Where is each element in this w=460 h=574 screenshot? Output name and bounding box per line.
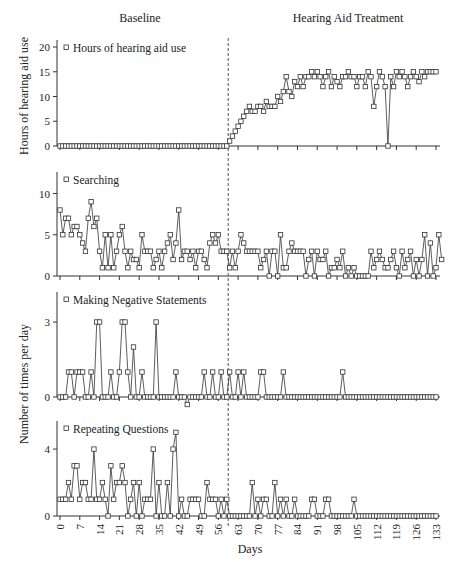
data-point bbox=[326, 274, 330, 278]
data-point bbox=[225, 395, 229, 399]
data-point bbox=[281, 514, 285, 518]
data-point bbox=[193, 266, 197, 270]
data-point bbox=[126, 514, 130, 518]
data-point bbox=[292, 497, 296, 501]
data-point bbox=[208, 241, 212, 245]
data-point bbox=[256, 249, 260, 253]
y-tick-label: 4 bbox=[45, 443, 51, 455]
y-axis-label-hours: Hours of hearing aid use bbox=[17, 37, 31, 155]
data-point bbox=[109, 370, 113, 374]
data-point bbox=[256, 497, 260, 501]
data-point bbox=[326, 70, 330, 74]
data-point bbox=[253, 109, 257, 113]
data-point bbox=[386, 266, 390, 270]
data-point bbox=[233, 129, 237, 133]
data-point bbox=[63, 497, 67, 501]
data-point bbox=[80, 370, 84, 374]
x-tick-label: 126 bbox=[410, 524, 422, 541]
y-axis-label-shared: Number of times per day bbox=[17, 324, 31, 444]
data-point bbox=[301, 249, 305, 253]
x-tick-label: 84 bbox=[291, 524, 303, 536]
data-point bbox=[109, 233, 113, 237]
data-point bbox=[264, 99, 268, 103]
data-point bbox=[386, 144, 390, 148]
data-point bbox=[227, 139, 231, 143]
data-point bbox=[66, 216, 70, 220]
x-tick-label: 133 bbox=[430, 524, 442, 541]
panel-searching: 0510Searching bbox=[39, 172, 444, 282]
x-tick-label: 49 bbox=[193, 524, 205, 536]
data-point bbox=[83, 480, 87, 484]
data-point bbox=[199, 249, 203, 253]
data-point bbox=[360, 75, 364, 79]
data-point bbox=[352, 75, 356, 79]
data-point bbox=[242, 241, 246, 245]
data-point bbox=[157, 249, 161, 253]
data-point bbox=[403, 75, 407, 79]
data-point bbox=[236, 124, 240, 128]
data-point bbox=[422, 233, 426, 237]
data-point bbox=[171, 447, 175, 451]
data-point bbox=[196, 497, 200, 501]
data-point bbox=[372, 104, 376, 108]
data-point bbox=[128, 395, 132, 399]
data-point bbox=[321, 514, 325, 518]
data-point bbox=[112, 266, 116, 270]
data-point bbox=[281, 89, 285, 93]
data-point bbox=[324, 75, 328, 79]
data-point bbox=[259, 514, 263, 518]
x-tick-label: 0 bbox=[54, 524, 66, 530]
data-point bbox=[406, 257, 410, 261]
data-point bbox=[233, 395, 237, 399]
data-point bbox=[97, 320, 101, 324]
data-point bbox=[315, 70, 319, 74]
data-point bbox=[239, 119, 243, 123]
data-point bbox=[408, 249, 412, 253]
data-point bbox=[128, 249, 132, 253]
data-point bbox=[86, 216, 90, 220]
data-point bbox=[307, 257, 311, 261]
data-point bbox=[273, 249, 277, 253]
data-point bbox=[188, 257, 192, 261]
data-point bbox=[275, 274, 279, 278]
data-point bbox=[343, 274, 347, 278]
data-point bbox=[408, 75, 412, 79]
data-point bbox=[222, 514, 226, 518]
data-point bbox=[179, 497, 183, 501]
data-point bbox=[355, 84, 359, 88]
data-point bbox=[151, 447, 155, 451]
data-point bbox=[312, 274, 316, 278]
data-point bbox=[171, 257, 175, 261]
y-tick-label: 10 bbox=[39, 91, 51, 103]
data-point bbox=[154, 514, 158, 518]
data-line bbox=[60, 322, 436, 405]
data-point bbox=[278, 497, 282, 501]
data-point bbox=[202, 257, 206, 261]
data-point bbox=[366, 70, 370, 74]
data-point bbox=[233, 266, 237, 270]
data-point bbox=[236, 249, 240, 253]
data-point bbox=[213, 241, 217, 245]
data-point bbox=[278, 233, 282, 237]
data-point bbox=[112, 497, 116, 501]
data-point bbox=[363, 84, 367, 88]
data-point bbox=[425, 274, 429, 278]
data-point bbox=[374, 257, 378, 261]
data-point bbox=[420, 257, 424, 261]
panel-hours-of-hearing-aid-use: 05101520Hours of hearing aid use bbox=[39, 40, 440, 152]
data-point bbox=[349, 514, 353, 518]
data-point bbox=[177, 514, 181, 518]
data-point bbox=[230, 249, 234, 253]
data-point bbox=[292, 79, 296, 83]
data-point bbox=[434, 514, 438, 518]
data-point bbox=[78, 497, 82, 501]
y-tick-label: 0 bbox=[45, 391, 51, 403]
data-point bbox=[162, 249, 166, 253]
data-point bbox=[92, 447, 96, 451]
data-point bbox=[162, 514, 166, 518]
data-point bbox=[434, 395, 438, 399]
data-point bbox=[92, 224, 96, 228]
x-tick-label: 56 bbox=[212, 524, 224, 536]
data-point bbox=[377, 70, 381, 74]
data-point bbox=[106, 395, 110, 399]
